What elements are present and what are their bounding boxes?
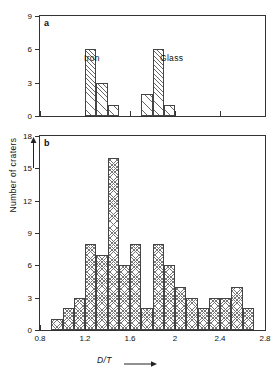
- y-tick-b-18: [35, 136, 39, 137]
- panel-a-plot-frame: [39, 15, 266, 117]
- bar-craters-1.9: [164, 265, 175, 330]
- bar-iron-1.3: [96, 83, 107, 116]
- bar-craters-1.6: [130, 244, 141, 330]
- bar-craters-1.8: [153, 244, 164, 330]
- series-label-iron: Iron: [84, 53, 100, 63]
- x-tick-a-0.8: [40, 111, 41, 116]
- y-tick-label-b-6: 6: [12, 261, 32, 270]
- bar-iron-1.4: [108, 105, 119, 116]
- x-axis-arrow-icon: [124, 360, 158, 368]
- panel-b-plot-area: [40, 136, 265, 330]
- y-tick-b-15: [35, 168, 39, 169]
- y-tick-label-a-6: 6: [12, 45, 32, 54]
- x-tick-label-1.6: 1.6: [118, 334, 142, 343]
- y-tick-b-3: [35, 298, 39, 299]
- panel-a-plot-area: [40, 16, 265, 116]
- x-tick-label-2: 2: [163, 334, 187, 343]
- panel-b-plot-frame: [39, 135, 266, 331]
- y-tick-b-0: [35, 330, 39, 331]
- bar-glass-1.7: [141, 94, 152, 116]
- x-tick-b-1.2: [85, 325, 86, 330]
- bar-craters-2.3: [209, 298, 220, 330]
- bar-craters-1.1: [74, 298, 85, 330]
- x-tick-label-0.8: 0.8: [28, 334, 52, 343]
- x-tick-label-2.8: 2.8: [253, 334, 271, 343]
- y-tick-label-a-0: 0: [12, 112, 32, 121]
- y-tick-label-b-15: 15: [12, 164, 32, 173]
- x-tick-a-2.8: [265, 111, 266, 116]
- x-tick-b-0.8: [40, 325, 41, 330]
- y-tick-b-12: [35, 201, 39, 202]
- y-tick-b-6: [35, 265, 39, 266]
- x-tick-label-2.4: 2.4: [208, 334, 232, 343]
- bar-craters-2.1: [186, 298, 197, 330]
- y-tick-b-9: [35, 233, 39, 234]
- y-tick-label-b-18: 18: [12, 132, 32, 141]
- y-tick-label-b-12: 12: [12, 196, 32, 205]
- x-tick-b-2: [175, 325, 176, 330]
- y-tick-label-a-3: 3: [12, 78, 32, 87]
- bar-craters-2.5: [231, 287, 242, 330]
- y-tick-label-b-9: 9: [12, 229, 32, 238]
- bar-craters-1.5: [119, 265, 130, 330]
- x-tick-a-1.2: [85, 111, 86, 116]
- panel-b-label: b: [44, 138, 50, 148]
- bar-craters-1: [63, 308, 74, 330]
- y-tick-a-0: [35, 116, 39, 117]
- bar-craters-2: [175, 287, 186, 330]
- x-tick-b-1.6: [130, 325, 131, 330]
- x-tick-a-1.6: [130, 111, 131, 116]
- y-tick-a-9: [35, 16, 39, 17]
- x-tick-label-1.2: 1.2: [73, 334, 97, 343]
- x-tick-b-2.4: [220, 325, 221, 330]
- y-tick-a-3: [35, 83, 39, 84]
- y-tick-label-b-3: 3: [12, 293, 32, 302]
- x-axis-title: D/T: [97, 355, 112, 365]
- x-tick-a-2.4: [220, 111, 221, 116]
- y-tick-a-6: [35, 49, 39, 50]
- bar-craters-2.2: [198, 308, 209, 330]
- bar-craters-2.6: [243, 308, 254, 330]
- figure-histograms: a Iron Glass b Number of craters D/T 036…: [0, 0, 271, 373]
- bar-craters-1.7: [141, 308, 152, 330]
- bar-glass-1.9: [164, 105, 175, 116]
- panel-a-label: a: [44, 18, 49, 28]
- x-tick-a-2: [175, 111, 176, 116]
- bar-craters-1.3: [96, 255, 107, 330]
- x-tick-b-2.8: [265, 325, 266, 330]
- bar-craters-0.9: [51, 319, 62, 330]
- y-tick-label-a-9: 9: [12, 12, 32, 21]
- bar-craters-1.2: [85, 244, 96, 330]
- bar-craters-2.4: [220, 298, 231, 330]
- series-label-glass: Glass: [160, 53, 183, 63]
- bar-craters-1.4: [108, 158, 119, 330]
